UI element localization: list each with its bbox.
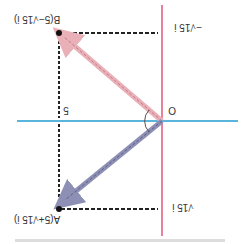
vector-ob [64,37,162,121]
svg-text:A(5+√15 i): A(5+√15 i) [14,214,60,225]
svg-text:O: O [168,105,176,116]
label-real-tick-5: 5 [63,105,69,116]
point-a [56,206,62,212]
label-point-a: A(5+√15 i) [14,214,60,225]
svg-text:B(5−√15 i): B(5−√15 i) [14,14,60,25]
label-point-b: B(5−√15 i) [14,14,60,25]
svg-text:−√15 i: −√15 i [174,22,201,33]
label-imag-neg: −√15 i [174,22,201,33]
label-imag-pos: √15 i [172,202,194,213]
label-origin: O [168,105,176,116]
caption-faint [15,239,225,242]
svg-text:5: 5 [63,105,69,116]
complex-plane-diagram: O 5 B(5−√15 i) A(5+√15 i) −√15 i √15 i [0,0,243,244]
point-b [56,30,62,36]
svg-text:√15 i: √15 i [172,202,194,213]
